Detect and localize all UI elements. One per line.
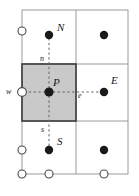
boundary-node-west-top — [18, 27, 26, 35]
label-node-N: N — [57, 22, 64, 33]
mesh-canvas — [0, 0, 139, 196]
label-face-w: w — [6, 88, 11, 96]
boundary-node-south-mid — [45, 170, 53, 178]
boundary-node-west-bottom — [18, 146, 26, 154]
node-N — [45, 31, 53, 39]
label-node-E: E — [111, 75, 118, 86]
label-face-n: n — [40, 55, 44, 63]
label-face-e: e — [78, 92, 82, 100]
node-E — [100, 88, 108, 96]
node-SE — [100, 146, 108, 154]
node-P — [44, 87, 53, 96]
label-node-P: P — [53, 77, 60, 88]
boundary-node-west-mid — [18, 88, 27, 97]
node-S — [45, 146, 53, 154]
node-NE — [100, 31, 108, 39]
label-face-s: s — [41, 126, 44, 134]
boundary-node-south-right — [100, 170, 108, 178]
label-node-S: S — [57, 136, 63, 147]
boundary-node-south-left — [18, 170, 26, 178]
finite-volume-diagram: N P E S n s w e — [0, 0, 139, 196]
